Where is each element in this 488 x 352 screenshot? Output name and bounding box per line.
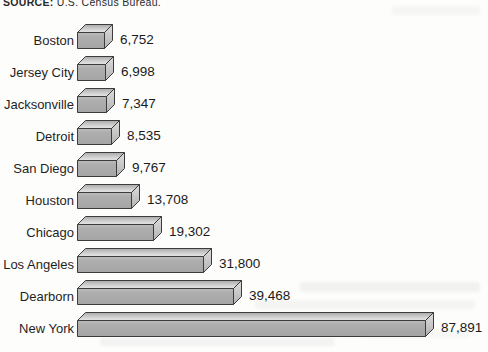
value-label: 6,998	[121, 64, 155, 79]
bar-3d	[77, 216, 163, 242]
chart-row: San Diego9,767	[0, 152, 488, 178]
bar-3d	[77, 248, 213, 274]
category-label: Houston	[0, 193, 74, 208]
bar-3d	[77, 184, 141, 210]
category-label: Boston	[0, 33, 74, 48]
chart-row: New York87,891	[0, 312, 488, 338]
bar-3d	[77, 24, 114, 50]
bar-3d	[77, 152, 126, 178]
value-label: 8,535	[127, 128, 161, 143]
chart-area: Boston6,752Jersey City6,998Jacksonville7…	[0, 0, 488, 352]
bar-3d	[77, 280, 243, 306]
category-label: Chicago	[0, 225, 74, 240]
chart-row: Chicago19,302	[0, 216, 488, 242]
chart-row: Jersey City6,998	[0, 56, 488, 82]
value-label: 19,302	[169, 224, 210, 239]
chart-row: Houston13,708	[0, 184, 488, 210]
value-label: 6,752	[120, 32, 154, 47]
category-label: New York	[0, 321, 74, 336]
value-label: 87,891	[441, 320, 482, 335]
value-label: 39,468	[249, 288, 290, 303]
bar-3d	[77, 88, 116, 114]
value-label: 31,800	[219, 256, 260, 271]
category-label: Los Angeles	[0, 257, 74, 272]
scanned-chart-page: SOURCE: U.S. Census Bureau. Boston6,752J…	[0, 0, 488, 352]
category-label: Jacksonville	[0, 97, 74, 112]
chart-row: Dearborn39,468	[0, 280, 488, 306]
value-label: 13,708	[147, 192, 188, 207]
category-label: Jersey City	[0, 65, 74, 80]
category-label: Detroit	[0, 129, 74, 144]
bar-3d	[77, 56, 115, 82]
value-label: 9,767	[132, 160, 166, 175]
chart-row: Los Angeles31,800	[0, 248, 488, 274]
category-label: San Diego	[0, 161, 74, 176]
chart-row: Boston6,752	[0, 24, 488, 50]
chart-row: Jacksonville7,347	[0, 88, 488, 114]
chart-row: Detroit8,535	[0, 120, 488, 146]
category-label: Dearborn	[0, 289, 74, 304]
value-label: 7,347	[122, 96, 156, 111]
bar-3d	[77, 312, 435, 338]
bar-3d	[77, 120, 121, 146]
